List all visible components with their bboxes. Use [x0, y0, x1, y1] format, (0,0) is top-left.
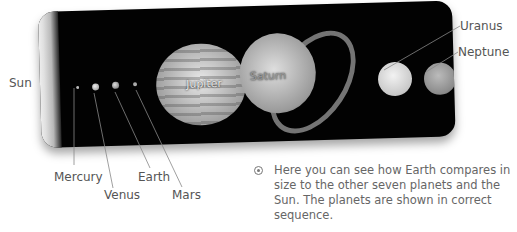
earth-label: Earth: [138, 170, 170, 184]
sun-label: Sun: [9, 76, 32, 90]
mars-label: Mars: [172, 188, 201, 202]
venus-label: Venus: [104, 188, 140, 202]
target-bullet-icon: [254, 166, 263, 175]
neptune-label: Neptune: [458, 45, 509, 59]
mercury-label: Mercury: [54, 170, 103, 184]
uranus-label: Uranus: [460, 19, 503, 33]
caption-text: Here you can see how Earth compares in s…: [274, 163, 514, 223]
